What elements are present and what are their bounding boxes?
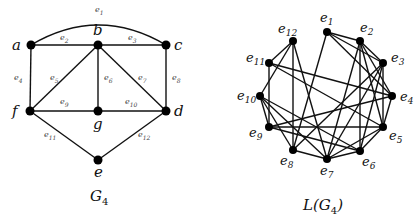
vertex-b: [94, 41, 103, 50]
edge-label-e10: e10: [125, 97, 138, 108]
lg-vertex-label-e8: e8: [280, 153, 294, 170]
edge-label-e8: e8: [172, 73, 181, 84]
diagram-canvas: e1e2e3e4e5e6e7e8e9e10e11e12abcfgde G4 e1…: [0, 0, 420, 224]
lg-vertex-label-e9: e9: [249, 125, 263, 142]
lg-vertex-e9: [265, 123, 273, 131]
vertex-d: [162, 107, 171, 116]
lg-vertex-label-e7: e7: [320, 163, 334, 180]
lg-vertex-e10: [256, 92, 264, 100]
vertex-label-c: c: [174, 36, 183, 54]
lg-vertex-e3: [379, 59, 387, 67]
lg-vertex-label-e3: e3: [391, 50, 405, 67]
lg-vertex-e11: [265, 59, 273, 67]
vertex-label-e: e: [94, 163, 103, 181]
edge-label-e12: e12: [138, 130, 151, 141]
lg-vertex-e1: [323, 28, 331, 36]
edge-e11: [30, 111, 98, 160]
lg-vertex-e7: [323, 155, 331, 163]
g4-caption: G4: [90, 187, 108, 207]
lg-vertex-label-e4: e4: [400, 89, 414, 106]
edge-label-e7: e7: [138, 73, 147, 84]
edge-label-e4: e4: [14, 73, 23, 84]
lg-vertex-label-e2: e2: [360, 20, 374, 37]
lg-vertex-e8: [289, 146, 297, 154]
vertex-label-a: a: [12, 36, 21, 54]
edge-label-e9: e9: [60, 97, 69, 108]
lg-edge-e6-e7: [327, 151, 360, 159]
edge-e12: [98, 111, 166, 160]
edge-e4: [30, 45, 31, 111]
vertex-f: [26, 107, 35, 116]
lg-vertex-e12: [289, 37, 297, 45]
edge-label-e2: e2: [60, 33, 69, 44]
vertex-label-g: g: [93, 115, 103, 133]
vertex-c: [162, 41, 171, 50]
vertex-label-f: f: [11, 102, 20, 120]
lg-vertex-e5: [379, 123, 387, 131]
edge-label-e3: e3: [128, 33, 137, 44]
edge-label-e1: e1: [95, 5, 104, 16]
lg-edge-e4-e5: [383, 96, 392, 127]
lg-vertex-label-e1: e1: [320, 10, 333, 27]
lg-vertex-label-e6: e6: [362, 154, 376, 171]
lg-vertex-e2: [356, 37, 364, 45]
vertex-label-b: b: [93, 21, 103, 39]
vertex-label-d: d: [174, 102, 184, 120]
line-graph-caption: L(G4): [302, 196, 343, 216]
line-graph-edges: [260, 32, 392, 159]
edge-label-e5: e5: [50, 73, 59, 84]
edge-label-e6: e6: [104, 73, 113, 84]
lg-vertex-label-e11: e11: [246, 50, 265, 67]
lg-edge-e5-e7: [327, 127, 383, 159]
lg-vertex-label-e12: e12: [278, 21, 297, 38]
lg-vertex-e4: [388, 92, 396, 100]
lg-vertex-label-e5: e5: [389, 128, 403, 145]
lg-vertex-label-e10: e10: [237, 88, 256, 105]
edge-label-e11: e11: [44, 130, 56, 141]
vertex-a: [27, 41, 36, 50]
